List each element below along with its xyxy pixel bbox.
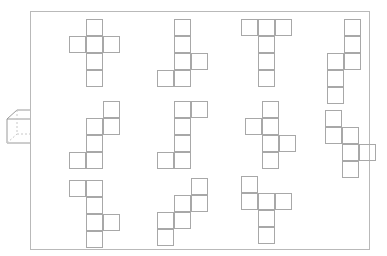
stepped-zigzag-net: [325, 110, 376, 178]
net-square: [258, 70, 275, 87]
net-square: [325, 127, 342, 144]
net-square: [69, 152, 86, 169]
net-square: [344, 53, 361, 70]
staircase-left-net: [69, 101, 120, 169]
net-square: [342, 127, 359, 144]
cube-edge-connect-top-left: [7, 110, 17, 119]
net-square: [86, 135, 103, 152]
net-square: [241, 193, 258, 210]
top-pair-column-right-arm-net: [69, 180, 120, 248]
net-square: [327, 87, 344, 104]
net-square: [86, 70, 103, 87]
net-square: [258, 210, 275, 227]
net-square: [258, 36, 275, 53]
net-square: [69, 180, 86, 197]
net-square: [157, 229, 174, 246]
net-square: [174, 53, 191, 70]
net-square: [103, 36, 120, 53]
net-square: [86, 152, 103, 169]
tee-net: [241, 19, 292, 87]
net-square: [275, 193, 292, 210]
net-square: [262, 135, 279, 152]
net-square: [258, 193, 275, 210]
net-square: [262, 101, 279, 118]
net-square: [174, 19, 191, 36]
net-square: [342, 161, 359, 178]
net-square: [327, 53, 344, 70]
net-square: [325, 110, 342, 127]
column-with-opposite-arms-net: [245, 101, 296, 169]
net-square: [174, 212, 191, 229]
net-square: [258, 53, 275, 70]
net-square: [174, 101, 191, 118]
net-square: [327, 70, 344, 87]
net-square: [174, 135, 191, 152]
net-square: [69, 36, 86, 53]
net-square: [279, 135, 296, 152]
net-square: [344, 36, 361, 53]
net-square: [191, 178, 208, 195]
net-square: [275, 19, 292, 36]
column-right-left-net: [157, 19, 208, 87]
net-square: [191, 101, 208, 118]
net-square: [174, 152, 191, 169]
net-square: [359, 144, 376, 161]
net-square: [342, 144, 359, 161]
staircase-descending-net: [157, 178, 208, 246]
column-top-right-bottom-left-net: [157, 101, 208, 169]
net-square: [86, 118, 103, 135]
net-square: [241, 19, 258, 36]
net-square: [103, 118, 120, 135]
net-square: [157, 212, 174, 229]
net-square: [262, 152, 279, 169]
net-square: [103, 101, 120, 118]
net-square: [258, 227, 275, 244]
net-square: [86, 180, 103, 197]
net-square: [86, 197, 103, 214]
net-square: [86, 36, 103, 53]
net-square: [86, 19, 103, 36]
net-square: [258, 19, 275, 36]
net-square: [103, 214, 120, 231]
net-square: [157, 70, 174, 87]
net-square: [86, 214, 103, 231]
net-square: [174, 118, 191, 135]
net-square: [86, 231, 103, 248]
net-square: [241, 176, 258, 193]
net-square: [245, 118, 262, 135]
net-square: [174, 195, 191, 212]
net-square: [174, 36, 191, 53]
offset-double-column-net: [327, 19, 361, 104]
net-square: [191, 53, 208, 70]
net-square: [262, 118, 279, 135]
net-square: [157, 152, 174, 169]
net-square: [174, 70, 191, 87]
net-square: [344, 19, 361, 36]
net-square: [86, 53, 103, 70]
plus-cross-net: [69, 19, 120, 87]
cube-edge-connect-bottom-left-hidden: [7, 134, 17, 143]
net-square: [191, 195, 208, 212]
cube-nets-figure: [0, 0, 387, 256]
corner-row-column-net: [241, 176, 292, 244]
